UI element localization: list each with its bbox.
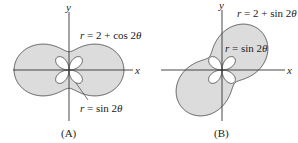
x-axis-label-a: x — [134, 64, 140, 76]
polar-curves-figure: x y r = 2 + cos 2θ r = sin 2θ (A) x y r … — [0, 0, 298, 143]
y-axis-label-a: y — [65, 1, 71, 13]
outer-curve-label-a: r = 2 + cos 2θ — [80, 29, 142, 41]
outer-curve-label-b: r = 2 + sin 2θ — [237, 7, 297, 19]
x-axis-label-b: x — [286, 64, 292, 76]
caption-a: (A) — [61, 127, 77, 140]
y-axis-label-b: y — [218, 0, 224, 11]
panel-b: x y r = 2 + sin 2θ r = sin 2θ (B) — [161, 0, 297, 140]
inner-curve-label-a: r = sin 2θ — [80, 102, 123, 114]
inner-curve-label-b: r = sin 2θ — [225, 42, 268, 54]
caption-b: (B) — [214, 127, 229, 140]
panel-a: x y r = 2 + cos 2θ r = sin 2θ (A) — [13, 1, 142, 140]
